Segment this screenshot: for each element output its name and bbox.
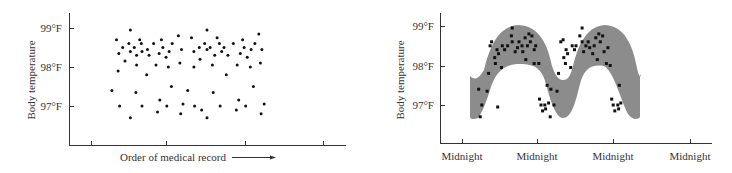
data-point xyxy=(537,62,540,65)
data-point xyxy=(213,54,216,57)
data-point xyxy=(501,44,504,47)
data-point xyxy=(203,42,206,45)
data-point xyxy=(511,27,514,30)
data-point xyxy=(190,36,193,39)
data-point xyxy=(518,40,521,43)
data-point xyxy=(540,104,543,107)
data-point xyxy=(521,50,524,53)
data-point xyxy=(129,116,132,119)
data-point xyxy=(617,107,620,110)
data-point xyxy=(198,46,201,49)
right-ytick-99: 99°F xyxy=(412,20,434,32)
left-y-axis-title: Body temperature xyxy=(25,40,37,119)
data-point xyxy=(223,46,226,49)
data-point xyxy=(549,88,552,91)
data-point xyxy=(496,48,499,51)
data-point xyxy=(158,52,161,55)
data-point xyxy=(209,46,212,49)
right-xtick-midnight-2: Midnight xyxy=(517,150,558,162)
data-point xyxy=(259,62,262,65)
right-x-ticks xyxy=(463,139,691,143)
data-point xyxy=(226,54,229,57)
data-point xyxy=(134,91,137,94)
data-point xyxy=(596,58,599,61)
data-point xyxy=(246,56,249,59)
data-point xyxy=(526,44,529,47)
data-point xyxy=(564,62,567,65)
right-ytick-98: 98°F xyxy=(412,60,434,72)
data-point xyxy=(135,54,138,57)
data-point xyxy=(129,28,132,31)
data-point xyxy=(212,91,215,94)
data-point xyxy=(220,50,223,53)
data-point xyxy=(244,105,247,108)
data-point xyxy=(578,34,581,37)
data-point xyxy=(582,50,585,53)
data-point xyxy=(494,62,497,65)
data-point xyxy=(110,89,113,92)
data-point xyxy=(243,46,246,49)
data-point xyxy=(487,72,490,75)
data-point xyxy=(140,42,143,45)
data-point xyxy=(605,62,608,65)
data-point xyxy=(145,73,148,76)
data-point xyxy=(530,34,533,37)
data-point xyxy=(235,108,238,111)
data-point xyxy=(510,34,513,37)
data-point xyxy=(603,50,606,53)
data-point xyxy=(610,98,613,101)
data-point xyxy=(613,109,616,112)
data-point xyxy=(167,66,170,69)
data-point xyxy=(573,48,576,51)
data-point xyxy=(146,48,149,51)
data-point xyxy=(496,106,499,109)
data-point xyxy=(199,58,202,61)
data-point xyxy=(180,48,183,51)
data-point xyxy=(141,50,144,53)
data-point xyxy=(506,44,509,47)
data-point xyxy=(565,48,568,51)
left-ytick-99: 99°F xyxy=(40,22,62,34)
data-point xyxy=(594,36,597,39)
data-point xyxy=(124,60,127,63)
data-point xyxy=(206,48,209,51)
data-point xyxy=(581,40,584,43)
data-point xyxy=(591,52,594,55)
data-point xyxy=(538,98,541,101)
data-point xyxy=(206,116,209,119)
data-point xyxy=(171,42,174,45)
data-point xyxy=(514,50,517,53)
data-point xyxy=(156,110,159,113)
data-point xyxy=(115,38,118,41)
data-point xyxy=(249,66,252,69)
data-point xyxy=(252,85,255,88)
data-point xyxy=(239,52,242,55)
data-point xyxy=(200,108,203,111)
data-point xyxy=(566,52,569,55)
data-point xyxy=(489,44,492,47)
data-point xyxy=(601,34,604,37)
data-point xyxy=(241,38,244,41)
data-point xyxy=(490,40,493,43)
data-point xyxy=(497,52,500,55)
data-point xyxy=(218,42,221,45)
data-point xyxy=(553,104,556,107)
left-ytick-98: 98°F xyxy=(40,61,62,73)
data-point xyxy=(618,84,621,87)
data-point xyxy=(581,27,584,30)
data-point xyxy=(546,84,549,87)
data-point xyxy=(533,48,536,51)
data-point xyxy=(612,104,615,107)
data-point xyxy=(133,46,136,49)
data-point xyxy=(138,38,141,41)
data-point xyxy=(503,48,506,51)
data-point xyxy=(529,40,532,43)
data-point xyxy=(193,105,196,108)
data-point xyxy=(534,44,537,47)
data-point xyxy=(117,52,120,55)
left-x-ticks xyxy=(92,141,324,145)
data-point xyxy=(121,46,124,49)
data-point xyxy=(206,28,209,31)
right-y-axis-title: Body temperature xyxy=(394,40,406,119)
data-point xyxy=(141,105,144,108)
